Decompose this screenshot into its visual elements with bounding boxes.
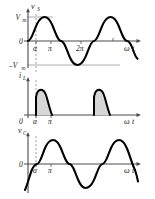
xlabel-source-main: ω [124,44,130,53]
ylabel-capacitor-main: v [18,126,22,135]
ytick-negvm-sub: m [22,65,26,71]
ylabel-source-sub: S [37,6,40,12]
xtick-2pi-source: 2π [76,44,84,53]
ylabel-capacitor-sub: C [23,130,27,136]
ytick-negvm-main: –V [8,61,19,70]
ylabel-source-main: v [31,2,35,11]
waveform-figure: v S V m 0 –V m α π 2π ω t i L 0 [0,0,155,199]
ytick-zero-current: 0 [19,117,23,126]
ytick-zero-capacitor: 0 [19,160,23,169]
xtick-pi-current: π [48,117,52,126]
xlabel-capacitor-main: ω [124,166,130,175]
xtick-pi-capacitor: π [48,166,52,175]
ytick-zero-source: 0 [19,37,23,46]
xtick-pi-source: π [48,44,52,53]
ylabel-current-sub: L [22,75,26,81]
ylabel-current-main: i [19,71,21,80]
ytick-vm-sub: m [23,17,27,23]
xlabel-current-main: ω [124,117,130,126]
waveform-svg: v S V m 0 –V m α π 2π ω t i L 0 [0,0,155,199]
